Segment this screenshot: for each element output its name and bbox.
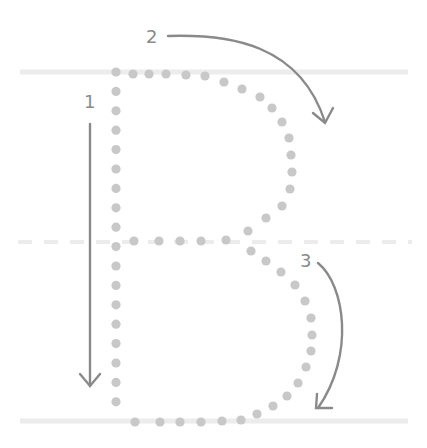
trace-dot — [301, 362, 310, 371]
trace-dot — [111, 320, 120, 329]
trace-dot — [111, 223, 120, 232]
trace-dot — [111, 203, 120, 212]
trace-dot — [277, 117, 286, 126]
trace-dot — [111, 281, 120, 290]
trace-dot — [111, 339, 120, 348]
trace-dot — [111, 145, 120, 154]
trace-dot — [111, 184, 120, 193]
trace-dot — [175, 417, 184, 426]
trace-dot — [276, 267, 285, 276]
trace-dot — [237, 84, 246, 93]
stroke-2-arrow-icon — [168, 36, 333, 123]
trace-dot — [282, 391, 291, 400]
trace-dot — [111, 87, 120, 96]
trace-dot — [307, 330, 316, 339]
trace-dot — [284, 133, 293, 142]
trace-dot — [129, 236, 138, 245]
letter-b-tracing-worksheet: 1 2 3 — [0, 0, 427, 448]
trace-dot — [130, 417, 139, 426]
stroke-2-number: 2 — [146, 26, 157, 47]
trace-dot — [161, 69, 170, 78]
trace-dot — [261, 213, 270, 222]
trace-dot — [111, 358, 120, 367]
stroke-3-arrow-icon — [316, 263, 342, 408]
trace-dot — [306, 313, 315, 322]
trace-dot — [144, 69, 153, 78]
trace-dot — [290, 280, 299, 289]
trace-dot — [221, 235, 230, 244]
dotted-letter-b — [111, 67, 316, 426]
trace-dot — [217, 416, 226, 425]
trace-dot — [277, 201, 286, 210]
trace-dot — [111, 67, 120, 76]
trace-dot — [268, 401, 277, 410]
trace-dot — [111, 378, 120, 387]
trace-dot — [236, 415, 245, 424]
trace-dot — [285, 184, 294, 193]
trace-dot — [111, 106, 120, 115]
trace-dot — [155, 417, 164, 426]
stroke-1-number: 1 — [84, 91, 95, 112]
trace-dot — [200, 71, 209, 80]
trace-dot — [111, 242, 120, 251]
stroke-3-number: 3 — [300, 250, 311, 271]
trace-dot — [287, 167, 296, 176]
trace-dot — [286, 150, 295, 159]
guide-lines — [18, 72, 412, 421]
trace-dot — [246, 246, 255, 255]
trace-dot — [267, 103, 276, 112]
trace-dot — [300, 296, 309, 305]
trace-dot — [219, 77, 228, 86]
trace-dot — [111, 164, 120, 173]
trace-dot — [261, 256, 270, 265]
trace-dot — [306, 346, 315, 355]
trace-dot — [243, 226, 252, 235]
trace-dot — [293, 378, 302, 387]
trace-dot — [196, 417, 205, 426]
trace-dot — [128, 69, 137, 78]
trace-dot — [154, 236, 163, 245]
trace-dot — [181, 70, 190, 79]
stroke-1-arrow-icon — [80, 124, 100, 386]
trace-dot — [252, 409, 261, 418]
trace-dot — [196, 236, 205, 245]
trace-dot — [175, 236, 184, 245]
trace-dot — [111, 397, 120, 406]
trace-dot — [255, 92, 264, 101]
trace-dot — [111, 126, 120, 135]
trace-dot — [111, 261, 120, 270]
trace-dot — [111, 300, 120, 309]
